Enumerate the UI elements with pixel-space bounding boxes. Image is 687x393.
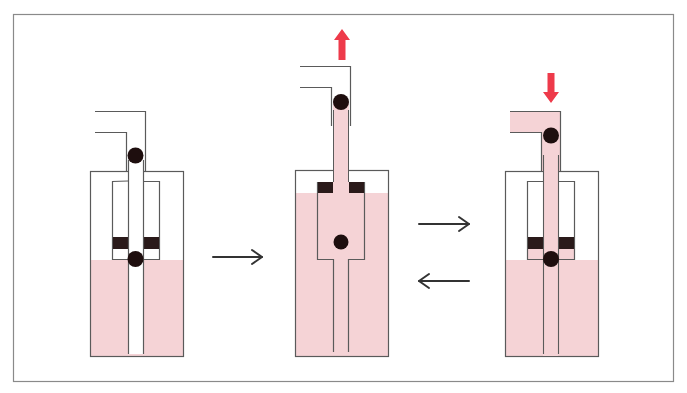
inlet-valve-ball [128,251,144,267]
valve-seal-right [144,237,159,249]
outlet-valve-ball [128,148,144,164]
outlet-valve-ball [333,94,349,110]
pump-diagram [0,0,687,393]
valve-seal-right [349,182,364,193]
inlet-valve-ball [543,251,559,267]
valve-seal-left [528,237,543,249]
valve-seal-left [318,182,333,193]
fluid-level [295,193,388,356]
outlet-valve-ball [543,128,559,144]
valve-seal-right [559,237,574,249]
inlet-valve-ball [334,235,349,250]
valve-seal-left [113,237,128,249]
